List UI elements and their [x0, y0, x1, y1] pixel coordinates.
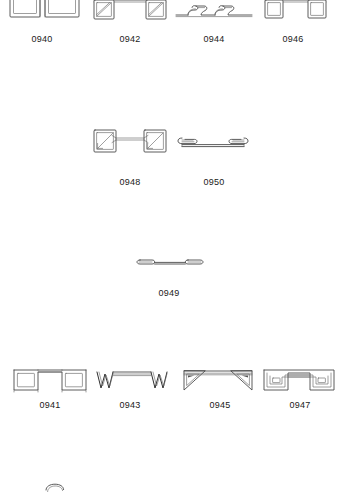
figure-0941-art: [12, 364, 90, 396]
figure-0941: [12, 364, 90, 396]
figure-0940-art: [8, 0, 82, 24]
figure-0946-art: [262, 0, 332, 26]
figure-0942-art: [92, 0, 170, 26]
figure-0945-label: 0945: [198, 400, 242, 411]
figure-0946: [262, 0, 332, 26]
figure-0948-art: [92, 128, 170, 162]
figure-0950: [176, 132, 250, 154]
figure-0944-art: [174, 0, 258, 24]
figure-0943-art: [94, 364, 172, 396]
figure-0942: [92, 0, 170, 26]
figure-0949: [130, 256, 210, 272]
figure-0950-art: [176, 132, 250, 154]
figure-0949-art: [130, 256, 210, 272]
figure-0950-label: 0950: [192, 177, 236, 188]
figure-0947: [262, 364, 338, 396]
figure-0949-label: 0949: [137, 288, 201, 299]
figure-0944-label: 0944: [192, 34, 236, 45]
figure-0940-label: 0940: [20, 34, 64, 45]
figure-0948-label: 0948: [108, 177, 152, 188]
figure-partial-clipped: [42, 481, 82, 495]
figure-0943-label: 0943: [108, 400, 152, 411]
figure-0946-label: 0946: [271, 34, 315, 45]
figure-0948: [92, 128, 170, 162]
figure-0947-label: 0947: [278, 400, 322, 411]
figure-0941-label: 0941: [28, 400, 72, 411]
figure-0945-art: [182, 364, 258, 396]
figure-0947-art: [262, 364, 338, 396]
figure-0942-label: 0942: [108, 34, 152, 45]
figure-partial-clipped-art: [42, 481, 82, 495]
figure-0945: [182, 364, 258, 396]
figure-0944: [174, 0, 258, 24]
figure-0943: [94, 364, 172, 396]
figure-0940: [8, 0, 82, 22]
